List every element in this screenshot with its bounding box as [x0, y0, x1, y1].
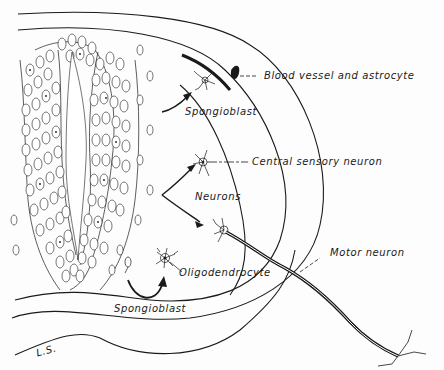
label-oligodendrocyte: Oligodendrocyte — [179, 268, 271, 278]
blood-vessel-icon — [182, 55, 239, 90]
central-sensory-neuron-icon — [193, 150, 209, 176]
label-central-sensory-neuron: Central sensory neuron — [252, 157, 382, 167]
inner-boundary-line — [15, 28, 286, 301]
arrow-to-oligodendrocyte — [128, 280, 162, 298]
label-blood-vessel-astrocyte: Blood vessel and astrocyte — [264, 71, 415, 81]
label-motor-neuron: Motor neuron — [330, 248, 405, 258]
central-canal — [66, 52, 86, 260]
label-spongioblast-bottom: Spongioblast — [114, 304, 186, 314]
spongioblast-bottom-icon — [125, 257, 131, 273]
label-spongioblast-top: Spongioblast — [185, 107, 257, 117]
label-neurons: Neurons — [195, 192, 241, 202]
neural-tube-diagram: Blood vessel and astrocyte Spongioblast … — [0, 0, 444, 370]
diagram-drawing — [0, 0, 444, 370]
arrow-to-sensory-neuron — [162, 168, 192, 195]
